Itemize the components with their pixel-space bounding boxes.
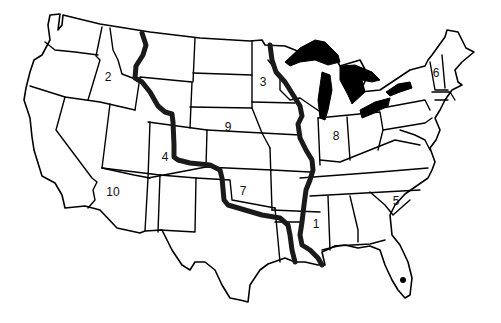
us-map: 1 2 3 4 5 6 7 8 9 10 (0, 0, 501, 323)
region-label-10: 10 (106, 186, 119, 198)
region-label-6: 6 (433, 67, 440, 79)
region-label-2: 2 (105, 71, 112, 83)
region-label-3: 3 (260, 76, 267, 88)
us-map-outline (0, 0, 501, 323)
region-label-9: 9 (225, 121, 232, 133)
region-label-4: 4 (162, 151, 169, 163)
region-label-8: 8 (333, 130, 340, 142)
region-label-5: 5 (393, 195, 400, 207)
florida-dot-marker (400, 277, 406, 283)
region-label-1: 1 (313, 218, 320, 230)
region-label-7: 7 (240, 185, 247, 197)
us-outline (24, 14, 474, 302)
